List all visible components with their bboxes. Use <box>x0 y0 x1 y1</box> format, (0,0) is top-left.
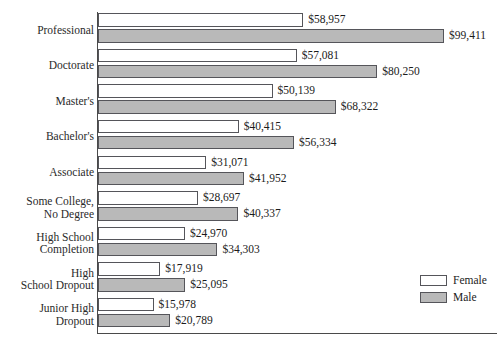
bar-value-label: $99,411 <box>444 29 486 43</box>
bar-female <box>98 298 154 312</box>
chart-row: Bachelor's$40,415$56,334 <box>0 119 504 155</box>
bar-value-label: $17,919 <box>160 262 202 276</box>
bar-value-label: $68,322 <box>336 100 378 114</box>
chart-row: Associate$31,071$41,952 <box>0 154 504 190</box>
category-label: Some College, No Degree <box>2 195 94 220</box>
bar-group: $31,071$41,952 <box>98 154 498 190</box>
category-label-text: Master's <box>3 95 94 107</box>
bar-value-label: $50,139 <box>273 84 315 98</box>
bar-group: $28,697$40,337 <box>98 190 498 226</box>
bar-value-label: $25,095 <box>185 278 227 292</box>
grouped-bar-chart: Professional$58,957$99,411Doctorate$57,0… <box>0 0 504 354</box>
bar-value-label: $24,970 <box>185 227 227 241</box>
legend-item: Male <box>420 290 487 304</box>
bar-group: $57,081$80,250 <box>98 48 498 84</box>
legend-label: Female <box>453 274 487 286</box>
category-label: Bachelor's <box>2 130 94 142</box>
category-label-text: Some College, No Degree <box>3 195 94 220</box>
bar-value-label: $57,081 <box>297 49 339 63</box>
bar-value-label: $40,337 <box>238 207 280 221</box>
category-label-text: Bachelor's <box>3 130 94 142</box>
chart-row: Doctorate$57,081$80,250 <box>0 48 504 84</box>
legend-swatch <box>420 292 447 303</box>
bar-value-label: $34,303 <box>217 243 259 257</box>
bar-value-label: $58,957 <box>303 13 345 27</box>
bar-male <box>98 207 238 221</box>
category-label: Professional <box>2 24 94 36</box>
category-label: Junior High Dropout <box>2 302 94 327</box>
bar-female <box>98 156 206 170</box>
bar-male <box>98 29 444 43</box>
bar-female <box>98 227 185 241</box>
category-label-text: High School Dropout <box>3 267 94 292</box>
category-label-text: High School Completion <box>3 231 94 256</box>
chart-row: Some College, No Degree$28,697$40,337 <box>0 190 504 226</box>
legend-item: Female <box>420 273 487 287</box>
chart-row: Master's$50,139$68,322 <box>0 83 504 119</box>
bar-male <box>98 314 170 328</box>
bar-group: $58,957$99,411 <box>98 12 498 48</box>
bar-value-label: $15,978 <box>154 298 196 312</box>
category-label: High School Dropout <box>2 267 94 292</box>
bar-female <box>98 84 273 98</box>
category-label-text: Doctorate <box>3 59 94 71</box>
category-label: High School Completion <box>2 231 94 256</box>
bar-male <box>98 172 244 186</box>
legend-swatch <box>420 275 447 286</box>
chart-row: Professional$58,957$99,411 <box>0 12 504 48</box>
bar-female <box>98 49 297 63</box>
bar-value-label: $41,952 <box>244 172 286 186</box>
bar-value-label: $56,334 <box>294 136 336 150</box>
bar-female <box>98 262 160 276</box>
category-label: Master's <box>2 95 94 107</box>
bar-male <box>98 100 336 114</box>
bar-female <box>98 120 239 134</box>
bar-group: $24,970$34,303 <box>98 226 498 262</box>
category-label-text: Junior High Dropout <box>3 302 94 327</box>
bar-value-label: $80,250 <box>377 65 419 79</box>
bar-value-label: $40,415 <box>239 120 281 134</box>
chart-row: High School Completion$24,970$34,303 <box>0 226 504 262</box>
bar-value-label: $31,071 <box>206 156 248 170</box>
legend-label: Male <box>453 291 477 303</box>
bar-group: $40,415$56,334 <box>98 119 498 155</box>
x-axis-line <box>97 333 497 334</box>
bar-group: $50,139$68,322 <box>98 83 498 119</box>
bar-value-label: $20,789 <box>170 314 212 328</box>
bar-male <box>98 136 294 150</box>
bar-male <box>98 243 217 257</box>
chart-legend: FemaleMale <box>420 273 487 307</box>
bar-female <box>98 13 303 27</box>
bar-male <box>98 65 377 79</box>
bar-female <box>98 191 198 205</box>
bar-male <box>98 278 185 292</box>
category-label-text: Professional <box>3 24 94 36</box>
category-label-text: Associate <box>3 166 94 178</box>
bar-value-label: $28,697 <box>198 191 240 205</box>
category-label: Doctorate <box>2 59 94 71</box>
category-label: Associate <box>2 166 94 178</box>
